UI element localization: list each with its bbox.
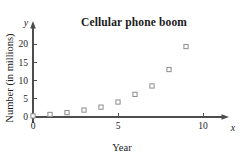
data-point — [116, 100, 120, 104]
y-tick-label: 10 — [19, 76, 29, 86]
data-point — [184, 44, 188, 48]
data-point — [31, 114, 35, 118]
y-tick-label: 20 — [19, 39, 29, 49]
y-axis-ticks: 05101520 — [19, 39, 38, 122]
x-tick-label: 5 — [116, 121, 121, 131]
y-tick-label: 5 — [23, 94, 28, 104]
y-axis-arrowhead — [30, 21, 36, 29]
scatter-plot: Cellular phone boom y x 05101520 0510 Ye… — [0, 0, 243, 163]
data-point — [48, 112, 52, 116]
chart-title: Cellular phone boom — [81, 16, 187, 29]
x-tick-label: 0 — [31, 121, 36, 131]
x-axis-ticks: 0510 — [31, 113, 208, 131]
data-point — [82, 108, 86, 112]
data-point — [150, 84, 154, 88]
x-axis-symbol: x — [230, 122, 236, 133]
x-axis-label: Year — [112, 142, 132, 153]
data-point — [133, 92, 137, 96]
x-tick-label: 10 — [198, 121, 208, 131]
data-point — [167, 67, 171, 71]
data-point-group — [31, 44, 188, 118]
data-point — [65, 111, 69, 115]
data-point — [99, 105, 103, 109]
x-axis-arrowhead — [222, 114, 230, 120]
y-tick-label: 15 — [19, 58, 29, 68]
y-tick-label: 0 — [23, 112, 28, 122]
chart-figure: Cellular phone boom y x 05101520 0510 Ye… — [0, 0, 243, 163]
y-axis-symbol: y — [23, 17, 29, 28]
y-axis-label: Number (in millions) — [4, 33, 16, 123]
